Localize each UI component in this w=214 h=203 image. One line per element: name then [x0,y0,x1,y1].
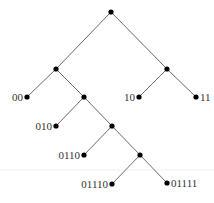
tree-edge [167,69,196,97]
tree-node-root [108,9,113,14]
tree-node-0111 [137,152,142,157]
tree-labels: 00101101001100111001111 [12,91,211,190]
tree-node-01 [81,94,86,99]
tree-node-1 [164,66,169,71]
tree-node-10 [136,94,141,99]
tree-edge [56,12,111,69]
tree-node-01111 [164,180,169,185]
node-label-0110: 0110 [58,149,80,161]
node-label-01110: 01110 [81,178,108,190]
node-label-00: 00 [12,91,24,103]
tree-edge [56,97,84,126]
tree-node-00 [24,94,29,99]
tree-edges [27,12,196,184]
tree-node-011 [109,123,114,128]
binary-tree-diagram: 00101101001100111001111 [0,0,214,203]
tree-edge [27,69,56,97]
tree-node-11 [193,94,198,99]
node-label-010: 010 [36,120,53,132]
tree-edge [84,97,112,126]
node-label-11: 11 [200,91,211,103]
tree-edge [111,12,167,69]
tree-node-01110 [109,181,114,186]
tree-node-0110 [81,152,86,157]
tree-node-010 [53,123,58,128]
tree-node-0 [53,66,58,71]
tree-nodes [24,9,198,186]
tree-edge [139,69,167,97]
tree-edge [56,69,84,97]
node-label-10: 10 [124,91,136,103]
tree-edge [112,126,140,155]
tree-edge [140,155,167,183]
node-label-01111: 01111 [171,177,197,189]
tree-edge [84,126,112,155]
